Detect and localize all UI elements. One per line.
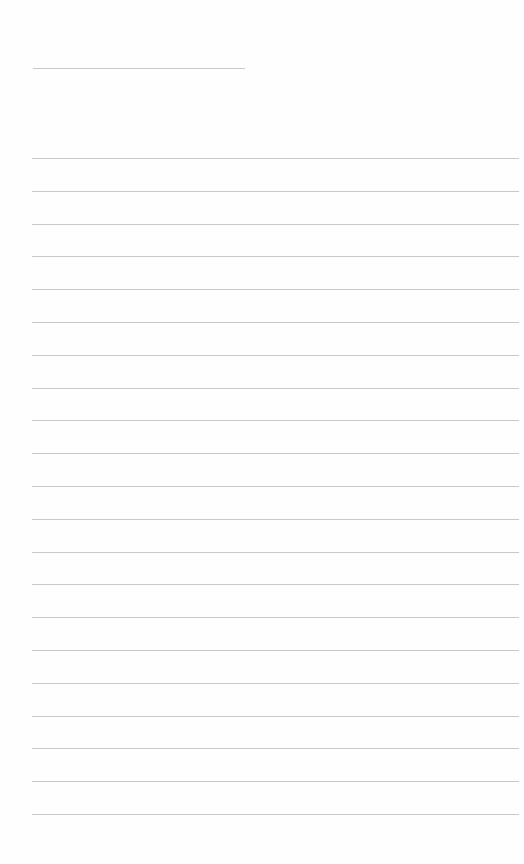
ruled-line bbox=[32, 486, 519, 487]
ruled-lines bbox=[0, 0, 524, 864]
ruled-line bbox=[32, 781, 519, 782]
ruled-line bbox=[32, 420, 519, 421]
ruled-line bbox=[32, 650, 519, 651]
ruled-line bbox=[32, 683, 519, 684]
ruled-line bbox=[32, 748, 519, 749]
ruled-line bbox=[32, 519, 519, 520]
ruled-line bbox=[32, 388, 519, 389]
ruled-line bbox=[32, 289, 519, 290]
ruled-line bbox=[32, 158, 519, 159]
ruled-line bbox=[32, 716, 519, 717]
ruled-line bbox=[32, 584, 519, 585]
ruled-line bbox=[32, 191, 519, 192]
ruled-line bbox=[32, 224, 519, 225]
ruled-line bbox=[32, 322, 519, 323]
ruled-line bbox=[32, 552, 519, 553]
ruled-line bbox=[32, 814, 519, 815]
ruled-line bbox=[32, 355, 519, 356]
lined-paper-sheet bbox=[0, 0, 524, 864]
ruled-line bbox=[32, 256, 519, 257]
ruled-line bbox=[32, 453, 519, 454]
ruled-line bbox=[32, 617, 519, 618]
